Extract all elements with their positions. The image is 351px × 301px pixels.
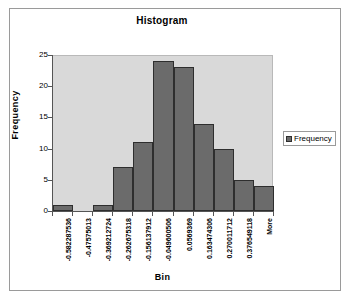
x-axis-tick-label: 0.0569369 (186, 218, 193, 251)
y-axis-tick (48, 180, 52, 181)
x-axis-tick (253, 212, 254, 216)
x-axis-tick (273, 212, 274, 216)
x-axis-tick-label: 0.270011712 (226, 218, 233, 259)
x-axis-tick (173, 212, 174, 216)
x-axis-tick (52, 212, 53, 216)
y-axis-tick (48, 149, 52, 150)
x-axis-tick-label: 0.376549118 (246, 218, 253, 259)
x-axis-tick-label: More (266, 218, 273, 235)
x-axis-title: Bin (52, 272, 273, 282)
legend-swatch-frequency (286, 136, 292, 142)
x-axis-tick-label: -0.369212724 (105, 218, 112, 261)
x-axis-tick (152, 212, 153, 216)
x-axis-tick (233, 212, 234, 216)
x-axis-tick (92, 212, 93, 216)
y-axis-tick (48, 55, 52, 56)
x-axis-tick (213, 212, 214, 216)
x-axis-tick (72, 212, 73, 216)
x-axis-tick-labels: -0.582287536-0.47575013-0.369212724-0.26… (0, 0, 351, 301)
legend-label-frequency: Frequency (294, 134, 332, 143)
y-axis-tick (48, 86, 52, 87)
x-axis-tick-label: -0.582287536 (65, 218, 72, 261)
chart-canvas: Histogram 0510152025 Frequency -0.582287… (0, 0, 351, 301)
x-axis-tick (193, 212, 194, 216)
x-axis-tick-label: -0.47575013 (85, 218, 92, 257)
x-axis-tick-label: 0.163474306 (206, 218, 213, 259)
x-axis-tick-label: -0.262675318 (125, 218, 132, 261)
x-axis-tick (112, 212, 113, 216)
chart-legend[interactable]: Frequency (283, 131, 336, 146)
x-axis-tick-label: -0.049600506 (165, 218, 172, 261)
y-axis-tick (48, 117, 52, 118)
x-axis-tick (132, 212, 133, 216)
x-axis-tick-label: -0.156137912 (145, 218, 152, 261)
